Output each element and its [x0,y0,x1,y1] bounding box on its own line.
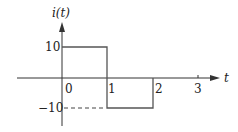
y-tick-label-neg10: −10 [38,101,63,115]
x-tick-label-1: 1 [108,82,116,96]
y-axis-label: i(t) [52,6,70,20]
y-tick-label-10: 10 [45,40,60,54]
x-tick-label-3: 3 [194,82,202,96]
x-axis-label: t [224,71,229,85]
x-tick-label-2: 2 [155,82,163,96]
y-axis-arrow-icon [59,22,65,32]
x-tick-label-0: 0 [65,82,73,96]
x-axis-arrow-icon [210,75,220,81]
chart: i(t) t 0 1 2 3 10 −10 [0,0,238,132]
